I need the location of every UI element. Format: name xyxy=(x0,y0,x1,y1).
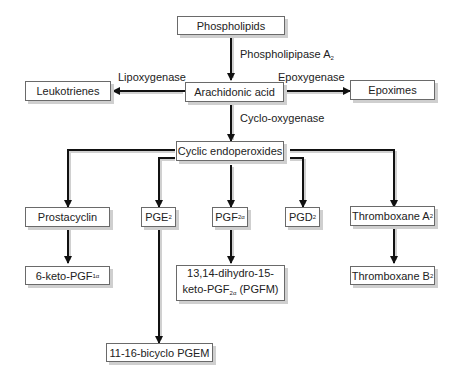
arrow-cyclic-to-pgd2 xyxy=(290,158,303,207)
node-label: Prostacyclin xyxy=(38,210,97,224)
enzyme-label-phospholipase: Phospholipipase A2 xyxy=(240,48,334,65)
node-cyclic-endoperoxides: Cyclic endoperoxides xyxy=(176,141,284,161)
node-label: Arachidonic acid xyxy=(194,85,275,99)
node-label: 11-16-bicyclo PGEM xyxy=(109,346,209,360)
enzyme-label-cyclooxygenase: Cyclo-oxygenase xyxy=(240,112,324,125)
node-pge2: PGE2 xyxy=(141,207,176,227)
node-phospholipids: Phospholipids xyxy=(177,16,285,35)
node-11-16-bicyclo-pgem: 11-16-bicyclo PGEM xyxy=(106,343,213,362)
node-prostacyclin: Prostacyclin xyxy=(25,207,110,227)
node-thromboxane-a2: Thromboxane A2 xyxy=(350,206,435,226)
node-epoximes: Epoximes xyxy=(350,80,435,100)
enzyme-label-epoxygenase: Epoxygenase xyxy=(278,71,345,84)
node-label: Epoximes xyxy=(368,83,416,97)
node-pgd2: PGD2 xyxy=(285,207,320,227)
node-thromboxane-b2: Thromboxane B2 xyxy=(350,266,435,285)
enzyme-label-lipoxygenase: Lipoxygenase xyxy=(118,71,186,84)
node-label: Leukotrienes xyxy=(37,84,100,98)
node-label: Cyclic endoperoxides xyxy=(178,144,283,158)
node-arachidonic-acid: Arachidonic acid xyxy=(185,82,284,102)
node-pgf2a: PGF2α xyxy=(212,207,248,227)
node-6-keto-pgf1a: 6-keto-PGF1α xyxy=(25,266,110,285)
pathway-connectors xyxy=(0,0,459,378)
node-pgfm: 13,14-dihydro-15- keto-PGF2α (PGFM) xyxy=(176,265,285,301)
node-leukotrienes: Leukotrienes xyxy=(25,81,111,101)
node-label: Phospholipids xyxy=(197,19,266,33)
